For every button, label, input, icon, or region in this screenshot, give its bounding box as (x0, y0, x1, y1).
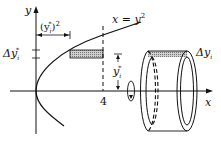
diagram-canvas (0, 0, 221, 144)
eq-exp: 2 (141, 12, 145, 20)
radius-label-exp: 2 (55, 20, 59, 28)
delta-y-star-label: Δyi* (3, 47, 19, 61)
curve-equation-label: x = y2 (112, 13, 145, 25)
eq-sign: = (118, 13, 134, 26)
delta-right-sub: i (210, 53, 212, 60)
x-tick-4-label: 4 (100, 96, 107, 107)
y-axis-label: y (25, 5, 31, 16)
radius-label: (yi*)2 (40, 21, 60, 34)
parabola-curve (36, 22, 141, 126)
x-axis-arrow-icon (206, 89, 213, 94)
shell-method-diagram: y x 4 x = y2 (yi*)2 Δyi* yi* Δyi (0, 0, 221, 144)
delta-left-star: * (16, 46, 19, 53)
shaded-strip (70, 50, 103, 58)
y-axis-arrow-icon (34, 6, 39, 13)
height-label: yi* (113, 65, 121, 79)
height-label-sub: i (119, 72, 121, 79)
delta-y-label: Δyi (196, 47, 212, 60)
delta-left-sub: i (17, 54, 19, 61)
x-axis (10, 89, 213, 94)
x-axis-label: x (205, 97, 211, 108)
y-axis (34, 6, 39, 134)
delta-right-prefix: Δy (196, 46, 210, 59)
height-label-star: * (118, 64, 121, 71)
